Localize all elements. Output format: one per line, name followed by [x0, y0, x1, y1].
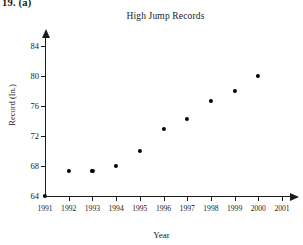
y-tick-label: 76	[21, 101, 39, 111]
data-point	[90, 169, 94, 173]
x-tick-mark	[164, 197, 165, 201]
y-tick-mark	[41, 166, 45, 167]
y-axis-line	[45, 37, 46, 197]
y-tick-label: 84	[21, 41, 39, 51]
x-axis-arrow-icon	[290, 193, 299, 201]
x-tick-mark	[211, 197, 212, 201]
x-axis-title: Year	[0, 230, 303, 240]
y-axis-title: Record (In.)	[7, 65, 17, 145]
x-axis-line	[45, 196, 290, 197]
data-point	[43, 194, 47, 198]
y-tick-mark	[41, 136, 45, 137]
x-tick-mark	[92, 197, 93, 201]
y-tick-label: 64	[21, 191, 39, 201]
data-point	[209, 99, 213, 103]
y-axis-arrow-icon	[42, 29, 50, 38]
y-tick-mark	[41, 46, 45, 47]
y-tick-mark	[41, 106, 45, 107]
x-tick-mark	[116, 197, 117, 201]
data-point	[138, 149, 142, 153]
y-tick-label: 68	[21, 161, 39, 171]
x-tick-label: 2001	[267, 204, 297, 213]
x-tick-mark	[69, 197, 70, 201]
x-tick-mark	[258, 197, 259, 201]
data-point	[256, 74, 260, 78]
data-point	[233, 89, 237, 93]
data-point	[67, 169, 71, 173]
data-point	[185, 117, 189, 121]
y-tick-label: 72	[21, 131, 39, 141]
data-point	[114, 164, 118, 168]
y-tick-label: 80	[21, 71, 39, 81]
x-tick-mark	[282, 197, 283, 201]
y-tick-mark	[41, 76, 45, 77]
x-tick-mark	[235, 197, 236, 201]
x-tick-mark	[187, 197, 188, 201]
x-tick-mark	[140, 197, 141, 201]
scatter-plot: Record (In.) Year 646872768084 199119921…	[0, 0, 303, 245]
data-point	[161, 126, 165, 130]
